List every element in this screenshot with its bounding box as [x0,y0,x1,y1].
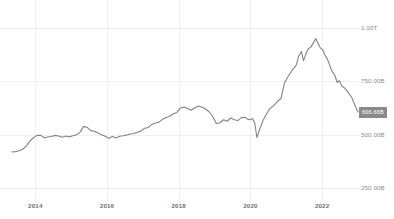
y-tick-label: 250.00B [361,185,385,191]
x-tick-label: 2022 [315,203,329,209]
y-tick-label: 750.00B [361,78,385,84]
y-tick-label: 500.00B [361,132,385,138]
x-tick-label: 2020 [243,203,257,209]
x-tick-label: 2014 [28,203,42,209]
series-layer [12,8,358,200]
last-value-badge: 606.66B [359,107,387,118]
plot-area [12,8,358,200]
y-tick-label: 1.00T [361,25,377,31]
series-line [12,39,358,152]
x-tick-label: 2018 [172,203,186,209]
x-axis: 20142016201820202022 [0,203,394,219]
market-cap-line-chart: 1.00T750.00B500.00B250.00B 2014201620182… [0,0,394,219]
x-tick-label: 2016 [100,203,114,209]
